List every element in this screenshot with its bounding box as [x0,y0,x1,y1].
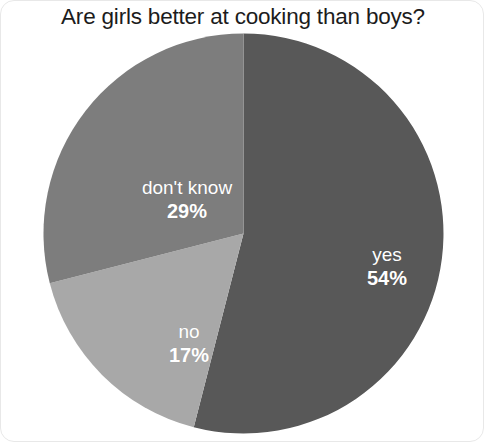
pie-label-yes-value: 54% [329,267,445,289]
pie-label-yes-category: yes [329,244,445,265]
pie-label-dont-know-value: 29% [105,200,269,222]
pie-label-yes: yes 54% [329,244,445,290]
pie-label-no-value: 17% [135,344,243,366]
page-title: Are girls better at cooking than boys? [1,4,484,30]
chart-figure: Are girls better at cooking than boys? y… [0,0,484,442]
pie-label-no: no 17% [135,321,243,367]
pie-chart: yes 54% no 17% don't know 29% [43,33,444,434]
pie-chart-svg [43,33,444,434]
pie-label-dont-know: don't know 29% [105,177,269,223]
pie-label-no-category: no [135,321,243,342]
pie-label-dont-know-category: don't know [105,177,269,198]
